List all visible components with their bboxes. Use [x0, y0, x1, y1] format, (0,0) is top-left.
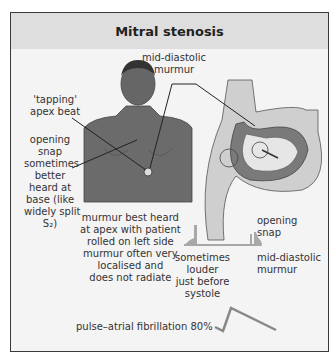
label-tapping-apex-beat: 'tapping'apex beat: [30, 94, 80, 118]
patient-figure: [84, 60, 192, 202]
label-mid-diastolic-murmur: mid-diastolicmurmur: [142, 52, 206, 76]
label-pulse-af: pulse–atrial fibrillation 80%: [76, 321, 213, 333]
label-sometimes-louder: sometimeslouder just beforesystole: [175, 252, 230, 300]
label-opening-snap-phono: openingsnap: [257, 215, 297, 239]
label-mid-diastolic-phono: mid-diastolicmurmur: [257, 252, 321, 276]
label-opening-snap-base: openingsnap sometimesbetter heard atbase…: [24, 134, 76, 230]
af-pulse-waveform: [215, 308, 276, 331]
label-murmur-best-heard: murmur best heardat apex with patient ro…: [80, 212, 181, 284]
